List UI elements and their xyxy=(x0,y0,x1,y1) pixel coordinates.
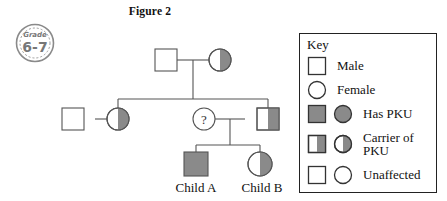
individual-father[interactable] xyxy=(257,108,279,130)
key-row-male: Male xyxy=(307,56,364,76)
individual-uncle-by-marriage[interactable] xyxy=(62,108,84,130)
key-row-has-pku: Has PKU xyxy=(307,104,412,124)
key-row-unaffected: Unaffected xyxy=(307,165,421,185)
individual-mother-generation-female[interactable] xyxy=(107,108,129,130)
key-square-affected xyxy=(307,104,333,124)
key-square-unaffected xyxy=(307,165,333,185)
child-b-label: Child B xyxy=(242,180,283,195)
key-row-female: Female xyxy=(307,80,375,100)
pedigree-chart: ? Child A Child B xyxy=(0,0,300,201)
key-label-unaffected: Unaffected xyxy=(363,168,421,181)
key-circle-affected xyxy=(333,104,359,124)
key-title: Key xyxy=(307,37,329,53)
pedigree-connector-lines xyxy=(95,60,268,152)
individual-grandmother[interactable] xyxy=(209,49,231,71)
key-circle-female xyxy=(307,80,333,100)
individual-mother-unknown[interactable]: ? xyxy=(193,108,215,130)
child-a-label: Child A xyxy=(176,180,217,195)
individual-child-b[interactable] xyxy=(248,152,272,176)
key-label-female: Female xyxy=(337,83,375,96)
key-square-carrier xyxy=(307,134,333,154)
key-circle-unaffected xyxy=(333,165,359,185)
key-circle-carrier xyxy=(333,134,359,154)
key-label-carrier-of-pku: Carrier of PKU xyxy=(363,131,436,157)
key-legend: Key Male Female Has PKU xyxy=(299,33,437,193)
key-square-male xyxy=(307,56,333,76)
key-label-male: Male xyxy=(337,59,364,72)
individual-child-a[interactable] xyxy=(184,152,208,176)
individual-grandfather[interactable] xyxy=(155,49,177,71)
key-label-has-pku: Has PKU xyxy=(363,107,412,120)
unknown-genotype-label: ? xyxy=(201,112,207,127)
pedigree-figure: Figure 2 Grade 6-7 xyxy=(0,0,447,201)
key-row-carrier-of-pku: Carrier of PKU xyxy=(307,131,436,157)
